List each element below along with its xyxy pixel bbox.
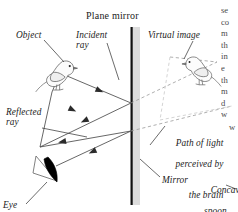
label-concave-spoon: Concave spoon [201, 175, 238, 212]
leader-mirror [140, 159, 160, 177]
ray-arrowheads [58, 86, 105, 156]
body-text-line-4: th [221, 40, 238, 52]
body-text-line-9: d [221, 98, 238, 110]
arrowhead-icon [68, 105, 78, 114]
body-text-line-1: se [221, 5, 238, 17]
leader-incident [107, 43, 119, 80]
body-text-line-2: co [221, 17, 238, 29]
incident-ray-lower [40, 131, 131, 147]
eye-icon [33, 156, 57, 182]
label-mirror: Mirror [162, 175, 188, 185]
label-eye: Eye [3, 200, 17, 210]
body-text-column: secomthinethmdw [221, 5, 238, 121]
incident-ray-upper [60, 73, 131, 103]
label-concave-line1: Concave [211, 185, 238, 195]
label-concave-line2: spoon [204, 206, 238, 212]
label-object: Object [16, 30, 41, 40]
leader-reflected [42, 128, 87, 137]
body-text-line-5: in [221, 51, 238, 63]
body-text-line-10: w [221, 109, 238, 121]
label-reflected-ray: Reflected ray [6, 107, 41, 128]
page-title: Plane mirror [86, 11, 139, 21]
virtual-support-left [160, 57, 170, 120]
body-text-line-8: m [221, 86, 238, 98]
mirror-band [132, 27, 141, 205]
leader-object [44, 40, 64, 62]
reflected-ray-lower [56, 131, 131, 166]
label-path-line1: Path of light [176, 138, 224, 148]
arrowhead-icon [58, 138, 67, 145]
arrowhead-icon [95, 86, 105, 95]
object-support-left [40, 92, 52, 147]
body-text-tail: w [229, 122, 235, 132]
body-text-line-7: th [221, 75, 238, 87]
bird-icon [36, 61, 78, 92]
mirror-line-icon [131, 27, 133, 205]
label-incident-ray: Incident ray [76, 30, 107, 51]
leader-eye [26, 182, 47, 204]
bird-icon [182, 57, 221, 87]
label-virtual-image: Virtual image [148, 30, 200, 40]
virtual-ray-group [131, 57, 232, 131]
reflected-ray-upper [40, 103, 131, 147]
leader-path [150, 126, 165, 145]
body-text-line-3: m [221, 28, 238, 40]
body-text-line-6: e [221, 63, 238, 75]
label-path-line2: perceived by [172, 159, 224, 169]
leader-virtual [184, 41, 193, 59]
mirror-reflection-figure: Plane mirror Object Incident ray Virtual… [0, 0, 238, 212]
